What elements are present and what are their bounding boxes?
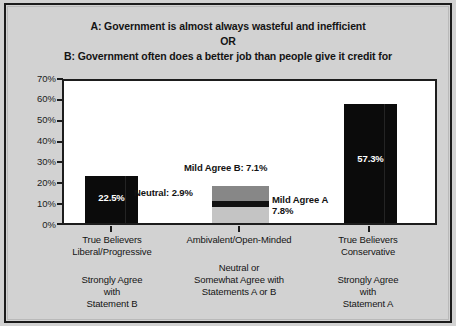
cat1-top-line2: Liberal/Progressive (42, 246, 182, 258)
y-tick-label-20: 20% (14, 178, 56, 188)
y-tick-label-60: 60% (14, 94, 56, 104)
bar1-value-label: 22.5% (85, 192, 138, 203)
cat2-bottom-line1: Neutral or (168, 262, 310, 274)
x-tick-cat1 (110, 226, 112, 232)
bar-ambivalent-stacked[interactable] (212, 186, 269, 223)
category-label-cat3-bottom: Strongly Agree with Statement A (300, 274, 436, 310)
cat1-bottom-line1: Strongly Agree (42, 274, 182, 286)
chart-title: A: Government is almost always wasteful … (0, 19, 456, 64)
cat1-top-line1: True Believers (42, 234, 182, 246)
bar-true-believers-conservative[interactable]: 57.3% (344, 104, 397, 223)
category-label-cat1-bottom: Strongly Agree with Statement B (42, 274, 182, 310)
y-tick-label-70: 70% (14, 74, 56, 84)
category-label-cat2-bottom: Neutral or Somewhat Agree with Statement… (168, 262, 310, 298)
bar-true-believers-liberal[interactable]: 22.5% (85, 176, 138, 223)
bar2-segment-neutral[interactable] (212, 201, 269, 207)
bar2-segment-mild-agree-b[interactable] (212, 186, 269, 201)
cat3-top-line2: Conservative (300, 246, 436, 258)
y-tick-label-50: 50% (14, 115, 56, 125)
y-tick-label-40: 40% (14, 136, 56, 146)
cat3-bottom-line3: Statement A (300, 298, 436, 310)
cat1-bottom-line2: with (42, 286, 182, 298)
plot-area: 22.5% 57.3% Neutral: 2.9% Mild Agree B: … (62, 79, 437, 225)
bar3-value-label: 57.3% (344, 153, 397, 164)
y-tick-label-10: 10% (14, 199, 56, 209)
category-label-cat1-top: True Believers Liberal/Progressive (42, 234, 182, 258)
callout-mild-agree-a-line1: Mild Agree A (272, 194, 328, 205)
title-line-b: B: Government often does a better job th… (0, 49, 456, 64)
y-tick-label-0: 0% (14, 220, 56, 230)
cat3-bottom-line1: Strongly Agree (300, 274, 436, 286)
category-label-cat2-top: Ambivalent/Open-Minded (168, 234, 310, 246)
callout-mild-agree-b: Mild Agree B: 7.1% (184, 162, 267, 173)
category-label-cat3-top: True Believers Conservative (300, 234, 436, 258)
x-tick-cat2 (238, 226, 240, 232)
y-tick-label-30: 30% (14, 157, 56, 167)
cat3-top-line1: True Believers (300, 234, 436, 246)
cat2-top-line1: Ambivalent/Open-Minded (168, 234, 310, 246)
cat1-bottom-line3: Statement B (42, 298, 182, 310)
bar2-segment-mild-agree-a[interactable] (212, 207, 269, 223)
cat3-bottom-line2: with (300, 286, 436, 298)
callout-mild-agree-a: Mild Agree A 7.8% (272, 194, 328, 216)
cat2-bottom-line3: Statements A or B (168, 286, 310, 298)
callout-neutral: Neutral: 2.9% (134, 187, 193, 198)
title-line-or: OR (0, 34, 456, 49)
callout-mild-agree-a-line2: 7.8% (272, 205, 328, 216)
x-tick-cat3 (368, 226, 370, 232)
title-line-a: A: Government is almost always wasteful … (0, 19, 456, 34)
cat2-bottom-line2: Somewhat Agree with (168, 274, 310, 286)
chart-figure: A: Government is almost always wasteful … (0, 0, 456, 326)
